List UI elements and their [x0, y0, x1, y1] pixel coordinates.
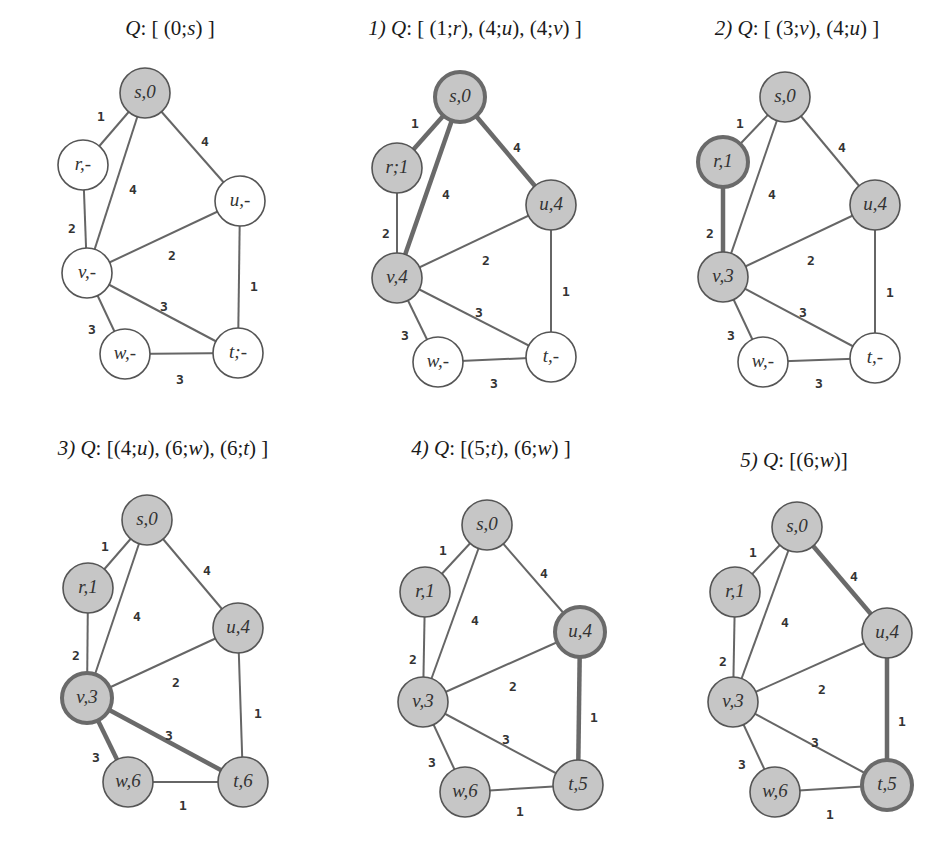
edge-weight-label: 4 — [201, 134, 209, 149]
edge-weight-label: 2 — [719, 654, 727, 669]
step-number: 5) — [740, 448, 763, 472]
node-s: s,0 — [435, 72, 485, 122]
edge-weight-label: 1 — [736, 116, 744, 131]
node-label: w,- — [114, 342, 136, 363]
edge-weight-label: 3 — [815, 376, 823, 391]
node-label: v,3 — [712, 265, 733, 286]
node-label: u,4 — [863, 193, 887, 214]
node-v: v,3 — [698, 252, 748, 302]
edge-weight-label: 1 — [886, 285, 894, 300]
graph-panel-step-4: 144221331s,0r,1u,4v,3w,6t,5 — [398, 500, 605, 819]
edge-weight-label: 3 — [727, 328, 735, 343]
queue-symbol: Q — [737, 16, 752, 40]
node-v: v,3 — [708, 677, 758, 727]
node-s: s,0 — [772, 502, 822, 552]
node-label: r,- — [75, 153, 91, 174]
edge-weight-label: 4 — [781, 615, 789, 630]
queue-contents: [ (0;s) ] — [152, 16, 215, 40]
queue-contents: [(4;u), (6;w), (6;t) ] — [107, 436, 269, 460]
queue-symbol: Q — [125, 16, 140, 40]
node-label: s,0 — [786, 515, 808, 536]
queue-contents: [ (3;v), (4;u) ] — [764, 16, 880, 40]
edge-weight-label: 4 — [442, 187, 450, 202]
node-label: w,6 — [452, 780, 478, 801]
queue-symbol: Q — [391, 16, 406, 40]
panel-title-step-0: Q: [ (0;s) ] — [125, 16, 214, 41]
panel-title-step-3: 3) Q: [(4;u), (6;w), (6;t) ] — [58, 436, 269, 461]
node-label: s,0 — [449, 85, 471, 106]
node-r: r,1 — [710, 567, 760, 617]
node-v: v,4 — [372, 253, 422, 303]
node-label: t,5 — [877, 773, 897, 794]
edge-weight-label: 4 — [838, 140, 846, 155]
node-s: s,0 — [760, 72, 810, 122]
edge-weight-label: 1 — [439, 543, 447, 558]
node-u: u,4 — [213, 603, 263, 653]
node-label: u,4 — [226, 616, 250, 637]
edge-weight-label: 4 — [850, 569, 858, 584]
node-u: u,4 — [526, 180, 576, 230]
edge-weight-label: 3 — [92, 750, 100, 765]
node-label: r;1 — [385, 156, 408, 177]
node-label: w,6 — [115, 770, 141, 791]
node-label: w,- — [752, 350, 774, 371]
edge-weight-label: 3 — [401, 328, 409, 343]
graph-panel-step-1: 144221333s,0r;1u,4v,4w,-t,- — [372, 72, 576, 391]
node-s: s,0 — [462, 500, 512, 550]
edge-weight-label: 2 — [68, 221, 76, 236]
node-label: r,1 — [78, 576, 98, 597]
edge-weight-label: 4 — [471, 613, 479, 628]
node-label: t,- — [867, 346, 883, 367]
node-label: r,1 — [713, 150, 733, 171]
node-label: v,4 — [386, 266, 408, 287]
panel-title-step-2: 2) Q: [ (3;v), (4;u) ] — [715, 16, 880, 41]
node-v: v,3 — [398, 677, 448, 727]
edge-weight-label: 4 — [129, 182, 137, 197]
node-label: s,0 — [134, 81, 156, 102]
node-r: r,1 — [400, 567, 450, 617]
node-v: v,- — [62, 248, 112, 298]
node-w: w,- — [413, 337, 463, 387]
edge-weight-label: 2 — [818, 682, 826, 697]
node-u: u,4 — [555, 607, 605, 657]
edge-weight-label: 4 — [203, 563, 211, 578]
node-r: r;1 — [372, 143, 422, 193]
graph-panel-step-3: 144221331s,0r,1u,4v,3w,6t,6 — [62, 495, 268, 813]
node-w: w,- — [738, 337, 788, 387]
edge-weight-label: 1 — [898, 714, 906, 729]
step-number: 3) — [58, 436, 81, 460]
node-s: s,0 — [122, 495, 172, 545]
edge-weight-label: 4 — [540, 566, 548, 581]
queue-symbol: Q — [80, 436, 95, 460]
step-number: 4) — [411, 436, 434, 460]
node-u: u,4 — [850, 180, 900, 230]
node-u: u,4 — [862, 608, 912, 658]
panel-title-step-5: 5) Q: [(6;w)] — [740, 448, 847, 473]
node-t: t,6 — [218, 757, 268, 807]
edge-weight-label: 2 — [409, 652, 417, 667]
node-label: s,0 — [476, 513, 498, 534]
node-label: t,- — [543, 345, 559, 366]
queue-symbol: Q — [763, 448, 778, 472]
queue-contents: [(5;t), (6;w) ] — [460, 436, 570, 460]
edge-weight-label: 1 — [562, 284, 570, 299]
graph-drawing: 144221333s,0r,-u,-v,-w,-t;-144221333s,0r… — [0, 0, 939, 845]
edge-weight-label: 1 — [179, 798, 187, 813]
edge-weight-label: 2 — [168, 248, 176, 263]
edge-v-t — [423, 702, 578, 785]
node-v: v,3 — [62, 673, 112, 723]
node-u: u,- — [215, 176, 265, 226]
edge-weight-label: 4 — [133, 609, 141, 624]
node-t: t,- — [526, 332, 576, 382]
node-t: t;- — [213, 328, 263, 378]
edge-weight-label: 3 — [428, 755, 436, 770]
edge-weight-label: 4 — [513, 140, 521, 155]
edge-weight-label: 2 — [482, 253, 490, 268]
node-label: w,6 — [762, 780, 788, 801]
edge-weight-label: 3 — [502, 732, 510, 747]
node-label: u,4 — [539, 193, 563, 214]
node-label: t,5 — [568, 773, 588, 794]
queue-contents: [(6;w)] — [789, 448, 847, 472]
graph-panel-step-2: 144221333s,0r,1u,4v,3w,-t,- — [698, 72, 900, 391]
edge-weight-label: 3 — [165, 728, 173, 743]
